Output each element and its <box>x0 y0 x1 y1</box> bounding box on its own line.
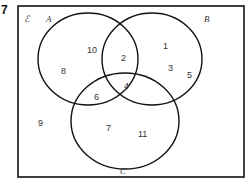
universal-set-label: ℰ <box>24 14 31 24</box>
region-b-only-value: 3 <box>168 63 173 73</box>
region-outside-value: 9 <box>38 118 43 128</box>
set-b-circle <box>102 13 202 105</box>
set-c-label: C <box>120 166 127 176</box>
set-a-label: A <box>45 14 52 24</box>
set-b-label: B <box>204 14 210 24</box>
region-c-only-value: 7 <box>106 123 111 133</box>
region-a-only-value: 10 <box>87 45 97 55</box>
region-abc-value: 4 <box>124 81 129 91</box>
region-ac-value: 6 <box>94 92 99 102</box>
region-b-only-value: 1 <box>163 41 168 51</box>
region-ab-value: 2 <box>121 53 126 63</box>
region-c-only-value: 11 <box>138 129 147 139</box>
region-b-only-value: 5 <box>187 70 192 80</box>
region-a-only-value: 8 <box>61 66 66 76</box>
venn-diagram: ℰ A B C 10 8 1 3 5 2 6 4 7 11 9 <box>0 0 249 186</box>
